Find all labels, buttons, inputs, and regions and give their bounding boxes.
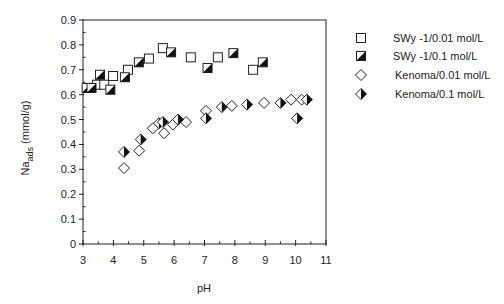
marker-shape bbox=[259, 97, 270, 108]
x-tick-label: 10 bbox=[290, 254, 302, 266]
x-tick-label: 7 bbox=[201, 254, 207, 266]
legend-marker bbox=[357, 34, 366, 43]
data-point bbox=[286, 94, 297, 105]
data-point bbox=[120, 73, 129, 82]
x-tick-label: 3 bbox=[80, 254, 86, 266]
data-point bbox=[203, 64, 212, 73]
data-point bbox=[96, 70, 105, 79]
data-point bbox=[242, 99, 253, 110]
data-point bbox=[167, 48, 176, 57]
data-point bbox=[106, 85, 115, 94]
legend-label: SWy -1/0.1 mol/L bbox=[393, 50, 477, 62]
data-point bbox=[119, 163, 130, 174]
x-tick-label: 5 bbox=[141, 254, 147, 266]
y-tick-label: 0.1 bbox=[61, 213, 76, 225]
data-point bbox=[87, 83, 96, 92]
y-axis-title: Naads (mmol/g) bbox=[19, 100, 35, 175]
marker-shape bbox=[134, 145, 145, 156]
legend-label: SWy -1/0.01 mol/L bbox=[393, 32, 483, 44]
x-tick-label: 9 bbox=[262, 254, 268, 266]
plot-border bbox=[83, 20, 326, 244]
data-point bbox=[158, 44, 167, 53]
marker-shape bbox=[186, 53, 195, 62]
series-diamond-half bbox=[119, 94, 313, 157]
legend-marker bbox=[356, 89, 367, 100]
data-point bbox=[226, 100, 237, 111]
data-point bbox=[259, 97, 270, 108]
x-tick-label: 6 bbox=[171, 254, 177, 266]
scatter-chart: 34567891011 00.10.20.30.40.50.60.70.80.9… bbox=[0, 0, 504, 304]
y-tick-label: 0.8 bbox=[61, 39, 76, 51]
data-point bbox=[201, 113, 212, 124]
plot-frame bbox=[83, 20, 326, 244]
marker-fill bbox=[247, 99, 253, 110]
data-point bbox=[292, 113, 303, 124]
marker-fill bbox=[307, 94, 313, 105]
data-point bbox=[109, 72, 118, 81]
marker-fill bbox=[297, 113, 303, 124]
legend-item: Kenoma/0.1 mol/L bbox=[356, 88, 485, 100]
data-points bbox=[82, 44, 312, 174]
y-tick-label: 0.6 bbox=[61, 89, 76, 101]
legend-marker bbox=[357, 52, 366, 61]
legend-item: SWy -1/0.01 mol/L bbox=[357, 32, 484, 44]
y-tick-label: 0.7 bbox=[61, 64, 76, 76]
marker-fill bbox=[361, 89, 367, 100]
marker-shape bbox=[213, 53, 222, 62]
data-point bbox=[216, 102, 227, 113]
y-axis: 00.10.20.30.40.50.60.70.80.9 bbox=[61, 14, 86, 250]
x-axis-title: pH bbox=[197, 282, 211, 294]
data-point bbox=[229, 49, 238, 58]
legend-item: SWy -1/0.1 mol/L bbox=[357, 50, 478, 62]
marker-fill bbox=[206, 113, 212, 124]
legend-item: Kenoma/0.01 mol/L bbox=[356, 69, 491, 81]
marker-shape bbox=[249, 65, 258, 74]
y-tick-label: 0.5 bbox=[61, 114, 76, 126]
data-point bbox=[186, 53, 195, 62]
marker-shape bbox=[286, 94, 297, 105]
legend-label: Kenoma/0.1 mol/L bbox=[395, 88, 484, 100]
y-tick-label: 0.3 bbox=[61, 163, 76, 175]
marker-fill bbox=[124, 146, 130, 157]
data-point bbox=[249, 65, 258, 74]
y-axis-title-subscript: ads bbox=[25, 146, 35, 161]
marker-shape bbox=[144, 54, 153, 63]
marker-fill bbox=[163, 117, 169, 128]
y-axis-title-main: Na bbox=[19, 161, 31, 176]
data-point bbox=[134, 145, 145, 156]
x-tick-label: 4 bbox=[110, 254, 116, 266]
legend-marker bbox=[356, 70, 367, 81]
marker-shape bbox=[159, 128, 170, 139]
marker-shape bbox=[356, 70, 367, 81]
x-tick-label: 8 bbox=[232, 254, 238, 266]
y-axis-title-unit: (mmol/g) bbox=[19, 100, 31, 146]
legend-label: Kenoma/0.01 mol/L bbox=[395, 69, 490, 81]
marker-shape bbox=[226, 100, 237, 111]
data-point bbox=[144, 54, 153, 63]
data-point bbox=[159, 128, 170, 139]
legend: SWy -1/0.01 mol/LSWy -1/0.1 mol/LKenoma/… bbox=[356, 32, 491, 100]
data-point bbox=[119, 146, 130, 157]
marker-shape bbox=[109, 72, 118, 81]
marker-shape bbox=[357, 34, 366, 43]
marker-fill bbox=[280, 97, 286, 108]
marker-shape bbox=[158, 44, 167, 53]
x-tick-label: 11 bbox=[320, 254, 331, 266]
y-tick-label: 0.2 bbox=[61, 188, 76, 200]
marker-shape bbox=[119, 163, 130, 174]
y-tick-label: 0 bbox=[70, 238, 76, 250]
data-point bbox=[213, 53, 222, 62]
y-tick-label: 0.4 bbox=[61, 138, 76, 150]
data-point bbox=[275, 97, 286, 108]
data-point bbox=[134, 58, 143, 67]
marker-fill bbox=[141, 134, 147, 145]
data-point bbox=[135, 134, 146, 145]
y-tick-label: 0.9 bbox=[61, 14, 76, 26]
data-point bbox=[258, 58, 267, 67]
marker-fill bbox=[222, 102, 228, 113]
